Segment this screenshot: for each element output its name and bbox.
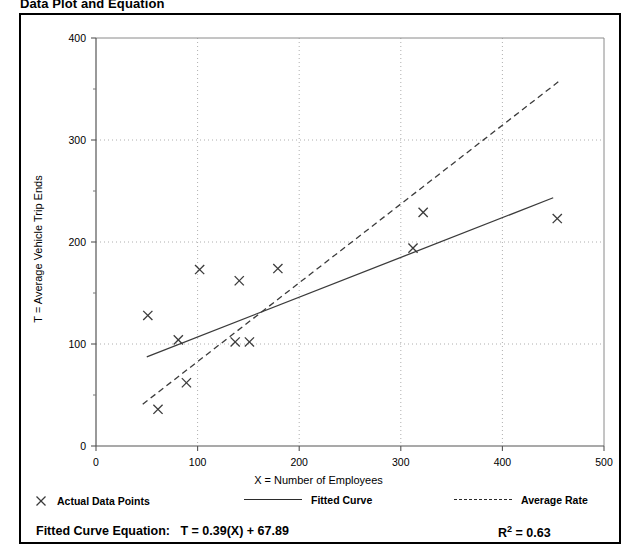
equation-expression: T = 0.39(X) + 67.89 — [180, 524, 288, 538]
y-axis-title: T = Average Vehicle Trip Ends — [32, 149, 44, 349]
legend-item-average-rate: Average Rate — [454, 494, 588, 506]
figure-border — [19, 13, 621, 544]
legend-label-actual-data-points: Actual Data Points — [57, 495, 150, 507]
legend-label-average-rate: Average Rate — [521, 494, 588, 506]
dashed-line-icon — [454, 499, 512, 502]
r-symbol: R — [498, 526, 507, 540]
x-marker-icon — [34, 494, 48, 508]
r-exponent: 2 — [507, 524, 512, 534]
r-value: = 0.63 — [516, 526, 551, 540]
equation-label: Fitted Curve Equation: — [36, 524, 170, 538]
x-axis-title: X = Number of Employees — [0, 474, 637, 486]
legend-label-fitted-curve: Fitted Curve — [311, 494, 372, 506]
legend-item-fitted-curve: Fitted Curve — [244, 494, 372, 506]
r-squared-value: R2 = 0.63 — [498, 524, 551, 540]
chart-legend: Actual Data Points Fitted Curve Average … — [24, 494, 616, 514]
figure-page: Data Plot and Equation 01002003004005000… — [0, 0, 637, 552]
equation-row: Fitted Curve Equation: T = 0.39(X) + 67.… — [24, 524, 616, 546]
figure-title: Data Plot and Equation — [20, 0, 164, 11]
fitted-curve-equation: Fitted Curve Equation: T = 0.39(X) + 67.… — [36, 524, 289, 538]
legend-item-actual-data-points: Actual Data Points — [34, 494, 150, 508]
solid-line-icon — [244, 499, 302, 502]
